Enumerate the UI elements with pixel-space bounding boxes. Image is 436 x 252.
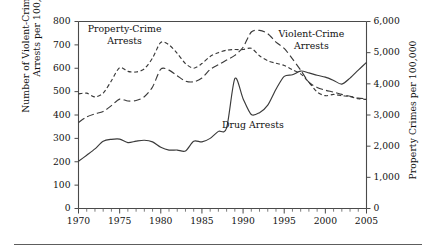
right-axis-tick-label: 5,000: [374, 46, 414, 57]
x-axis-tick-label: 1975: [103, 215, 137, 226]
left-axis-tick-label: 700: [43, 39, 71, 50]
right-axis-tick-label: 1,000: [374, 171, 414, 182]
x-axis-tick-label: 2000: [308, 215, 342, 226]
left-axis-tick-label: 300: [43, 132, 71, 143]
x-axis-tick-label: 1980: [144, 215, 178, 226]
left-axis-title: Number of Violent-Crime and Drug Arrests…: [20, 0, 42, 122]
left-axis-tick-label: 600: [43, 62, 71, 73]
left-axis-tick-label: 100: [43, 179, 71, 190]
right-axis-tick-label: 6,000: [374, 15, 414, 26]
chart-figure: Number of Violent-Crime and Drug Arrests…: [0, 0, 436, 252]
left-axis-tick-label: 400: [43, 109, 71, 120]
series-annotation-property-crime-arrests: Property-Crime Arrests: [70, 23, 180, 46]
x-axis-tick-label: 1985: [185, 215, 219, 226]
right-axis-tick-label: 2,000: [374, 140, 414, 151]
left-axis-tick-label: 200: [43, 156, 71, 167]
x-axis-tick-label: 1995: [267, 215, 301, 226]
x-axis-tick-label: 2005: [350, 215, 384, 226]
right-axis-tick-label: 3,000: [374, 109, 414, 120]
right-axis-tick-label: 4,000: [374, 78, 414, 89]
bottom-divider-rule: [14, 244, 422, 245]
series-line-drug-arrests: [79, 62, 367, 161]
left-axis-tick-label: 500: [43, 85, 71, 96]
x-axis-tick-label: 1990: [226, 215, 260, 226]
x-axis-tick-label: 1970: [62, 215, 96, 226]
left-axis-tick-label: 0: [43, 202, 71, 213]
left-axis-tick-label: 800: [43, 15, 71, 26]
series-annotation-drug-arrests: Drug Arrests: [198, 119, 308, 131]
right-axis-tick-label: 0: [374, 202, 414, 213]
series-annotation-violent-crime: Violent-Crime Arrests: [256, 28, 366, 51]
